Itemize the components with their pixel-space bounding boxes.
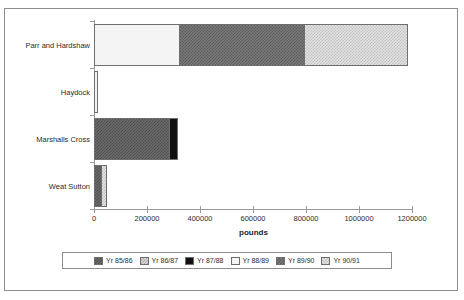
legend-label-yr-87-88: Yr 87/88 bbox=[197, 257, 223, 264]
legend-swatch-icon-yr-88-89 bbox=[231, 257, 240, 265]
legend-label-yr-90-91: Yr 90/91 bbox=[333, 257, 359, 264]
x-tick-600000 bbox=[253, 206, 254, 213]
x-tick-label-800000: 800000 bbox=[276, 214, 336, 223]
y-tick-top bbox=[90, 21, 95, 22]
y-tick-4 bbox=[90, 209, 95, 210]
legend-label-yr-85-86: Yr 85/86 bbox=[106, 257, 132, 264]
bar-segment-yr-90-91[interactable] bbox=[304, 24, 408, 66]
x-tick-label-200000: 200000 bbox=[117, 214, 177, 223]
x-tick-400000 bbox=[200, 206, 201, 213]
chart-figure: Parr and Hardshaw Haydock Marshalls Cros… bbox=[0, 0, 464, 300]
legend-swatch-icon-yr-87-88 bbox=[185, 257, 194, 265]
legend-item-yr-87-88[interactable]: Yr 87/88 bbox=[185, 257, 223, 265]
x-tick-200000 bbox=[147, 206, 148, 213]
category-label-haydock: Haydock bbox=[8, 88, 90, 97]
stacked-bar bbox=[94, 71, 98, 113]
x-tick-label-1200000: 1200000 bbox=[382, 214, 442, 223]
legend-label-yr-86-87: Yr 86/87 bbox=[152, 257, 178, 264]
x-tick-label-400000: 400000 bbox=[170, 214, 230, 223]
legend-item-yr-85-86[interactable]: Yr 85/86 bbox=[94, 257, 132, 265]
bar-segment-yr-85-86[interactable] bbox=[94, 118, 170, 160]
bar-group-marshalls-cross bbox=[94, 118, 412, 160]
legend-item-yr-88-89[interactable]: Yr 88/89 bbox=[231, 257, 269, 265]
bar-group-haydock bbox=[94, 71, 412, 113]
legend-item-yr-90-91[interactable]: Yr 90/91 bbox=[321, 257, 359, 265]
legend-item-yr-89-90[interactable]: Yr 89/90 bbox=[276, 257, 314, 265]
x-tick-label-1000000: 1000000 bbox=[329, 214, 389, 223]
y-tick-2 bbox=[90, 115, 95, 116]
x-axis-title: pounds bbox=[94, 228, 413, 237]
stacked-bar bbox=[94, 118, 178, 160]
category-label-weat-sutton: Weat Sutton bbox=[8, 182, 90, 191]
y-tick-3 bbox=[90, 162, 95, 163]
legend-label-yr-88-89: Yr 88/89 bbox=[243, 257, 269, 264]
legend-item-yr-86-87[interactable]: Yr 86/87 bbox=[140, 257, 178, 265]
x-tick-800000 bbox=[306, 206, 307, 213]
x-tick-label-0: 0 bbox=[64, 214, 124, 223]
bar-segment-yr-89-90[interactable] bbox=[179, 24, 305, 66]
legend-swatch-icon-yr-85-86 bbox=[94, 257, 103, 265]
bar-segment-yr-88-89[interactable] bbox=[94, 24, 180, 66]
bar-segment-yr-88-89[interactable] bbox=[94, 71, 98, 113]
legend-swatch-icon-yr-86-87 bbox=[140, 257, 149, 265]
bar-group-weat-sutton bbox=[94, 165, 412, 207]
bar-group-parr-and-hardshaw bbox=[94, 24, 412, 66]
legend-swatch-icon-yr-90-91 bbox=[321, 257, 330, 265]
chart-legend: Yr 85/86 Yr 86/87 Yr 87/88 Yr 88/89 Yr 8… bbox=[62, 252, 392, 269]
y-tick-1 bbox=[90, 68, 95, 69]
category-label-parr-and-hardshaw: Parr and Hardshaw bbox=[8, 41, 90, 50]
bar-segment-yr-90-91[interactable] bbox=[101, 165, 107, 207]
x-tick-label-600000: 600000 bbox=[223, 214, 283, 223]
legend-swatch-icon-yr-89-90 bbox=[276, 257, 285, 265]
legend-label-yr-89-90: Yr 89/90 bbox=[288, 257, 314, 264]
stacked-bar bbox=[94, 165, 107, 207]
bar-segment-yr-87-88[interactable] bbox=[169, 118, 178, 160]
x-tick-1200000 bbox=[412, 206, 413, 213]
stacked-bar bbox=[94, 24, 408, 66]
category-label-marshalls-cross: Marshalls Cross bbox=[8, 135, 90, 144]
x-tick-1000000 bbox=[359, 206, 360, 213]
